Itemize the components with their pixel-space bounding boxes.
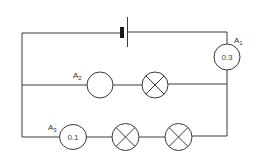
- ammeter-a2-circle: [87, 72, 113, 98]
- ammeter-a3-label: A3: [48, 123, 57, 133]
- lamp-icon: [165, 124, 192, 151]
- ammeter-a2-label: A2: [73, 71, 82, 81]
- ammeter-a1: 0.3 A1: [214, 36, 243, 70]
- wires: [22, 32, 227, 137]
- circuit-diagram: 0.3 A1 A2 0.1 A3: [0, 0, 253, 161]
- ammeter-a3-reading: 0.1: [67, 133, 79, 142]
- ammeter-a1-label: A1: [234, 36, 243, 46]
- ammeter-a1-reading: 0.3: [221, 53, 233, 62]
- cell-negative-plate: [120, 27, 124, 38]
- battery-cell-icon: [120, 17, 128, 47]
- lamp-icon: [142, 72, 168, 98]
- lamp-icon: [112, 124, 139, 151]
- ammeter-a3: 0.1 A3: [48, 123, 87, 150]
